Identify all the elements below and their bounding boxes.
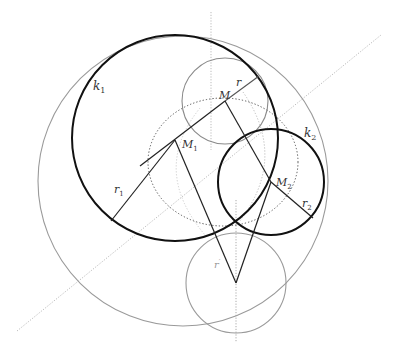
faint-dotted-arc-right <box>236 92 265 226</box>
label-M1: M1 <box>181 138 198 153</box>
label-r1: r1 <box>114 183 124 198</box>
label-k2: k2 <box>304 126 316 142</box>
label-r: r <box>236 76 242 89</box>
line-r1-radius <box>111 140 175 221</box>
label-k1: k1 <box>93 79 105 95</box>
line-M2-to-apex <box>236 182 271 283</box>
label-r-prime: r′ <box>214 258 221 270</box>
label-M2: M2 <box>275 176 292 191</box>
label-M: M <box>218 89 231 102</box>
diagram-canvas: k1 k2 M M1 M2 r r1 r2 r′ <box>0 0 396 356</box>
diagonal-dotted-line <box>17 35 381 331</box>
label-r2: r2 <box>302 197 312 212</box>
geometry-diagram: k1 k2 M M1 M2 r r1 r2 r′ <box>0 0 396 356</box>
